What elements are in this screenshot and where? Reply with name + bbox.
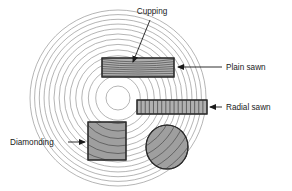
diamonding-square[interactable] xyxy=(88,122,126,160)
label-plain-sawn: Plain sawn xyxy=(226,63,266,72)
plain-sawn-board-group[interactable] xyxy=(101,58,175,77)
radial-sawn-board-group[interactable] xyxy=(137,100,207,114)
log-cross-section-figure: Cupping Plain sawn Radial sawn Diamondin… xyxy=(0,0,292,191)
label-radial-sawn: Radial sawn xyxy=(226,103,271,112)
pith-center xyxy=(107,87,129,109)
diagram-canvas: Cupping Plain sawn Radial sawn Diamondin… xyxy=(0,0,292,191)
label-diamonding: Diamonding xyxy=(10,138,54,147)
radial-sawn-board[interactable] xyxy=(137,100,207,114)
label-cupping: Cupping xyxy=(137,7,168,16)
